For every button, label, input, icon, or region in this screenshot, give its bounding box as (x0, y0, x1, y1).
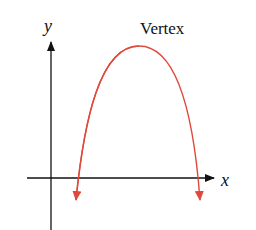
y-axis-label: y (42, 16, 52, 36)
parabola-left-arrow (76, 46, 139, 200)
vertex-label: Vertex (140, 19, 185, 38)
parabola-curve (76, 46, 200, 200)
x-axis-label: x (220, 170, 229, 190)
parabola-diagram: y x Vertex (0, 0, 256, 230)
